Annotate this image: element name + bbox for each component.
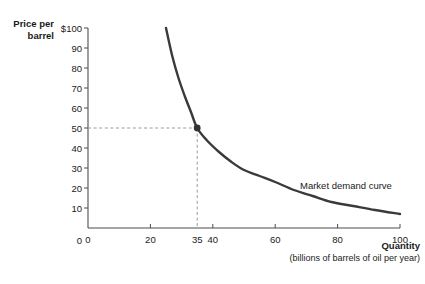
- x-axis-title: Quantity (billions of barrels of oil per…: [230, 240, 420, 264]
- y-tick-label: 10: [40, 203, 82, 214]
- y-tick-label: 90: [40, 43, 82, 54]
- chart-axes: [84, 28, 400, 228]
- y-tick-label: 0: [40, 235, 82, 246]
- x-tick-label: 0: [85, 234, 90, 245]
- market-demand-curve-label: Market demand curve: [300, 180, 392, 191]
- guide-lines: [88, 128, 197, 228]
- y-tick-label: 70: [40, 83, 82, 94]
- x-axis-title-sub: (billions of barrels of oil per year): [230, 252, 420, 264]
- chart-figure: Price per barrel $1009080706050403020100…: [0, 0, 425, 284]
- y-tick-label: 60: [40, 103, 82, 114]
- x-tick-label: 35: [192, 234, 203, 245]
- y-tick-label: 80: [40, 63, 82, 74]
- y-tick-label: 20: [40, 183, 82, 194]
- y-tick-label: 40: [40, 143, 82, 154]
- y-tick-label: 30: [40, 163, 82, 174]
- y-tick-label: $100: [40, 23, 82, 34]
- x-tick-label: 20: [145, 234, 156, 245]
- x-axis-title-main: Quantity: [230, 240, 420, 252]
- x-tick-label: 40: [208, 234, 219, 245]
- y-tick-label: 50: [40, 123, 82, 134]
- equilibrium-point-marker: [194, 125, 201, 132]
